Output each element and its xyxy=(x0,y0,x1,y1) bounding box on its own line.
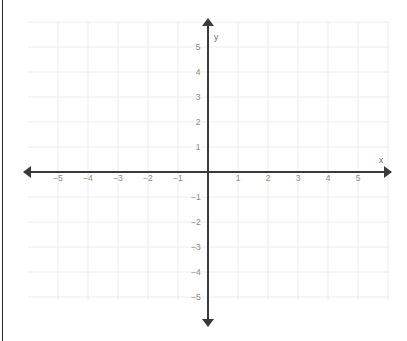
y-axis-label: y xyxy=(214,33,218,42)
y-axis-tick-label: 3 xyxy=(188,93,208,102)
y-axis-tick-label: −3 xyxy=(186,243,206,252)
x-axis-tick-label: −1 xyxy=(168,174,188,183)
x-axis-tick-label: −2 xyxy=(138,174,158,183)
x-axis-tick-label: 4 xyxy=(318,174,338,183)
plot-area: −5−4−3−2−112345 54321−1−2−3−4−5 x y xyxy=(0,0,407,341)
y-axis-tick-label: −5 xyxy=(186,293,206,302)
y-axis-tick-label: −4 xyxy=(186,268,206,277)
x-axis-tick-label: 5 xyxy=(348,174,368,183)
x-axis-tick-label: 1 xyxy=(228,174,248,183)
x-axis-tick-label: −3 xyxy=(108,174,128,183)
y-axis-tick-label: −1 xyxy=(186,193,206,202)
x-axis-tick-label: 3 xyxy=(288,174,308,183)
x-axis-tick-label: 2 xyxy=(258,174,278,183)
y-axis-tick-label: 5 xyxy=(188,43,208,52)
y-axis-tick-label: 1 xyxy=(188,143,208,152)
x-axis-tick-label: −4 xyxy=(78,174,98,183)
y-axis-tick-label: 2 xyxy=(188,118,208,127)
y-axis-tick-label: 4 xyxy=(188,68,208,77)
x-axis-label: x xyxy=(379,156,383,165)
y-axis-tick-label: −2 xyxy=(186,218,206,227)
coordinate-plane-figure: −5−4−3−2−112345 54321−1−2−3−4−5 x y xyxy=(0,0,407,341)
x-axis-tick-label: −5 xyxy=(48,174,68,183)
